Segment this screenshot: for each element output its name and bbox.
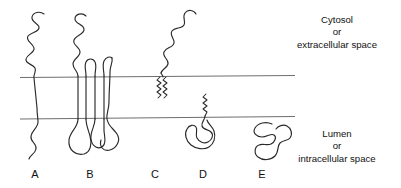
cytosol-compartment-label: Cytosol or extracellular space [274,14,400,51]
lumen-label-line-2: or [274,140,400,152]
membrane-lower-leaflet-line [20,117,295,120]
protein-label-e: E [252,168,272,180]
protein-a-chain [26,12,44,159]
cytosol-label-line-1: Cytosol [274,14,400,26]
cytosol-label-line-3: extracellular space [274,39,400,51]
membrane-protein-diagram: Cytosol or extracellular space Lumen or … [0,0,401,188]
cytosol-label-line-2: or [274,26,400,38]
protein-label-c: C [145,168,165,180]
lumen-label-line-1: Lumen [274,128,400,140]
protein-c-chain [157,10,196,98]
protein-b-chain [69,14,119,155]
protein-d-acyl-chain [203,94,207,116]
protein-d-chain [186,94,215,149]
protein-label-d: D [193,168,213,180]
protein-label-a: A [25,168,45,180]
membrane-upper-leaflet-line [20,76,295,78]
lumen-compartment-label: Lumen or intracellular space [274,128,400,165]
protein-c-acyl-chain-1 [157,77,161,98]
protein-c-acyl-chain-2 [163,77,167,98]
protein-label-b: B [80,168,100,180]
lumen-label-line-3: intracellular space [274,153,400,165]
